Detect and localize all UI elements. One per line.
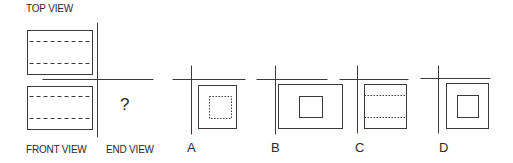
option-a-label[interactable]: A xyxy=(187,141,196,154)
front-view-rect xyxy=(28,87,93,130)
option-b-figure[interactable] xyxy=(257,66,343,135)
option-outer-rect xyxy=(365,85,407,129)
unknown-end-view-mark: ? xyxy=(120,96,129,113)
option-inner-rect xyxy=(300,97,323,118)
option-d-label[interactable]: D xyxy=(439,141,448,154)
option-c-label[interactable]: C xyxy=(355,141,364,154)
problem-figure xyxy=(28,23,154,138)
option-outer-rect xyxy=(199,86,237,129)
answer-options xyxy=(173,66,491,135)
option-c-figure[interactable] xyxy=(340,66,409,134)
option-outer-rect xyxy=(279,85,343,129)
top-view-label: TOP VIEW xyxy=(26,4,73,14)
end-view-label: END VIEW xyxy=(106,145,154,155)
option-a-figure[interactable] xyxy=(173,66,246,135)
option-d-figure[interactable] xyxy=(421,66,491,134)
option-inner-rect xyxy=(458,96,479,118)
option-outer-rect xyxy=(447,84,489,129)
orthographic-views-diagram xyxy=(0,0,513,163)
top-view-rect xyxy=(28,31,93,75)
option-b-label[interactable]: B xyxy=(271,141,280,154)
option-inner-rect xyxy=(210,97,232,119)
front-view-label: FRONT VIEW xyxy=(26,145,87,155)
